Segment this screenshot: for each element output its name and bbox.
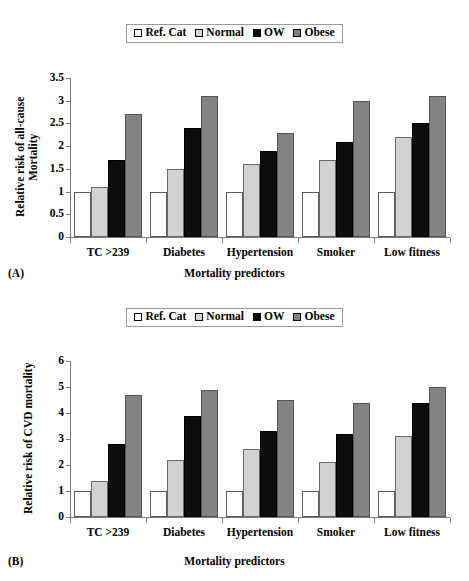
bar <box>302 491 319 517</box>
y-axis-tick <box>66 361 70 362</box>
bar <box>336 434 353 517</box>
x-axis-category-label: Smoker <box>298 527 374 539</box>
y-axis-tick-label: 3 <box>32 433 64 445</box>
x-axis-category-label: Smoker <box>298 247 374 259</box>
bar <box>260 151 277 237</box>
x-axis-category-label: Diabetes <box>146 247 222 259</box>
bar <box>243 449 260 517</box>
bar <box>201 390 218 517</box>
bar <box>378 192 395 237</box>
plot-area-a: 00.511.522.533.5TC >239DiabetesHypertens… <box>0 0 469 292</box>
x-axis-line <box>70 237 450 238</box>
plot-area-b: 0123456TC >239DiabetesHypertensionSmoker… <box>0 292 469 581</box>
bar <box>74 192 91 237</box>
x-axis-category-label: TC >239 <box>70 527 146 539</box>
x-axis-title: Mortality predictors <box>0 556 469 568</box>
bar <box>429 96 446 237</box>
bar <box>108 444 125 517</box>
bar <box>260 431 277 517</box>
bar <box>150 192 167 237</box>
bar <box>395 137 412 237</box>
y-axis-tick-label: 1 <box>32 186 64 198</box>
y-axis-tick-label: 1 <box>32 485 64 497</box>
x-axis-tick <box>450 238 451 243</box>
x-axis-tick <box>70 518 71 523</box>
bar <box>226 192 243 237</box>
bar <box>226 491 243 517</box>
bar <box>378 491 395 517</box>
x-axis-category-label: TC >239 <box>70 247 146 259</box>
bar <box>277 133 294 237</box>
y-axis-tick <box>66 214 70 215</box>
bar <box>184 128 201 237</box>
bar <box>412 403 429 517</box>
x-axis-tick <box>222 238 223 243</box>
bar <box>395 436 412 517</box>
bar <box>125 114 142 237</box>
x-axis-title: Mortality predictors <box>0 268 469 280</box>
y-axis-line <box>70 361 71 517</box>
y-axis-tick <box>66 78 70 79</box>
y-axis-tick-label: 2.5 <box>32 117 64 129</box>
x-axis-tick <box>374 238 375 243</box>
x-axis-line <box>70 517 450 518</box>
y-axis-tick-label: 4 <box>32 407 64 419</box>
x-axis-tick <box>146 238 147 243</box>
y-axis-tick-label: 0 <box>32 231 64 243</box>
bar <box>150 491 167 517</box>
x-axis-tick <box>298 518 299 523</box>
x-axis-tick <box>222 518 223 523</box>
bar <box>353 403 370 517</box>
bar <box>336 142 353 237</box>
bar <box>243 164 260 237</box>
y-axis-tick <box>66 123 70 124</box>
bar <box>74 491 91 517</box>
y-axis-tick <box>66 146 70 147</box>
y-axis-tick-label: 2 <box>32 459 64 471</box>
y-axis-tick <box>66 439 70 440</box>
y-axis-tick <box>66 192 70 193</box>
x-axis-tick <box>450 518 451 523</box>
bar <box>429 387 446 517</box>
x-axis-category-label: Low fitness <box>374 527 450 539</box>
x-axis-tick <box>374 518 375 523</box>
x-axis-category-label: Hypertension <box>222 527 298 539</box>
y-axis-tick <box>66 169 70 170</box>
y-axis-tick-label: 1.5 <box>32 163 64 175</box>
x-axis-tick <box>298 238 299 243</box>
chart-panel-b: Ref. Cat Normal OW Obese Relative risk o… <box>0 292 469 581</box>
bar <box>125 395 142 517</box>
x-axis-category-label: Low fitness <box>374 247 450 259</box>
y-axis-tick <box>66 491 70 492</box>
y-axis-tick-label: 3.5 <box>32 72 64 84</box>
y-axis-tick <box>66 413 70 414</box>
y-axis-line <box>70 78 71 237</box>
y-axis-tick <box>66 387 70 388</box>
y-axis-tick <box>66 465 70 466</box>
x-axis-tick <box>70 238 71 243</box>
y-axis-tick-label: 0 <box>32 511 64 523</box>
bar <box>412 123 429 237</box>
bar <box>201 96 218 237</box>
y-axis-tick-label: 2 <box>32 140 64 152</box>
chart-panel-a: Ref. Cat Normal OW Obese Relative risk o… <box>0 0 469 292</box>
x-axis-tick <box>146 518 147 523</box>
bar <box>302 192 319 237</box>
x-axis-category-label: Diabetes <box>146 527 222 539</box>
bar <box>319 160 336 237</box>
bar <box>167 460 184 517</box>
x-axis-category-label: Hypertension <box>222 247 298 259</box>
y-axis-tick-label: 0.5 <box>32 208 64 220</box>
y-axis-tick <box>66 101 70 102</box>
y-axis-tick-label: 6 <box>32 355 64 367</box>
bar <box>108 160 125 237</box>
bar <box>319 462 336 517</box>
bar <box>91 481 108 517</box>
bar <box>91 187 108 237</box>
y-axis-tick-label: 3 <box>32 95 64 107</box>
bar <box>277 400 294 517</box>
bar <box>167 169 184 237</box>
panel-tag-a: (A) <box>8 268 24 280</box>
panel-tag-b: (B) <box>8 556 23 568</box>
bar <box>353 101 370 237</box>
